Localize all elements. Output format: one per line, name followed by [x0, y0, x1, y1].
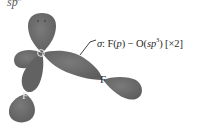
annotation-sp-orbital: sp	[147, 38, 156, 49]
electron-dot-icon	[37, 20, 39, 22]
annotation-leader-line	[80, 40, 96, 55]
annotation-multiplicity: ) [×2]	[159, 38, 183, 49]
orbital-diagram: sp3 O F F σ: F(p) − O(sp3) [×2]	[0, 0, 203, 126]
annotation-oxygen: ) − O(	[122, 38, 147, 49]
oxygen-right-lobe	[42, 51, 102, 80]
orbital-lobes	[0, 0, 203, 126]
fluorine-left-atom-label: F	[22, 90, 28, 101]
fluorine-right-atom-label: F	[100, 74, 106, 85]
fluorine-right-p-lobe	[103, 77, 142, 100]
electron-dot-icon	[44, 20, 46, 22]
annotation-fluorine: F(	[105, 38, 117, 49]
oxygen-top-lone-pair-lobe	[28, 13, 56, 53]
sigma-bond-annotation: σ: F(p) − O(sp3) [×2]	[97, 36, 183, 49]
